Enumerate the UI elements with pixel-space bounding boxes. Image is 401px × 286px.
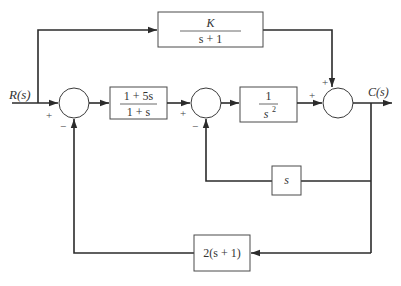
controller-denominator: 1 + s [127, 105, 151, 119]
summing-junction-3 [323, 88, 353, 118]
input-label: R(s) [8, 87, 31, 102]
feedforward-denominator: s + 1 [199, 32, 222, 46]
controller-numerator: 1 + 5s [124, 89, 154, 103]
plant-denominator-exponent: 2 [272, 105, 276, 114]
sum2-plus-sign: + [180, 107, 186, 119]
plant-numerator: 1 [266, 89, 272, 103]
controller-block: 1 + 5s 1 + s [110, 87, 167, 119]
sum3-plus-sign-left: + [309, 89, 315, 101]
summing-junction-1 [59, 88, 89, 118]
inner-feedback-block: s [272, 166, 301, 195]
sum1-plus-sign: + [46, 109, 52, 121]
sum3-plus-sign-top: + [322, 76, 328, 88]
outer-feedback-path [74, 119, 371, 253]
plant-denominator: s [264, 107, 269, 121]
sum2-minus-sign: − [192, 120, 198, 132]
inner-feedback-label: s [284, 173, 289, 187]
block-diagram: R(s) K s + 1 + − 1 + 5s 1 + s + − 1 s [0, 0, 401, 286]
sum1-minus-sign: − [60, 120, 66, 132]
outer-feedback-block: 2(s + 1) [194, 235, 250, 271]
summing-junction-2 [191, 88, 221, 118]
feedforward-numerator: K [205, 16, 215, 30]
plant-block: 1 s 2 [240, 87, 297, 122]
output-label: C(s) [368, 85, 389, 99]
feedforward-block: K s + 1 [158, 12, 263, 47]
outer-feedback-label: 2(s + 1) [203, 246, 240, 260]
